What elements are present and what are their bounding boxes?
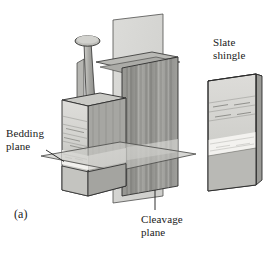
slate-shingle-label: Slate shingle: [213, 36, 245, 61]
bedding-plane-label: Bedding plane: [6, 127, 44, 152]
cleavage-plane-label: Cleavage plane: [141, 213, 183, 238]
panel-label: (a): [14, 208, 28, 221]
slate-shingle-slab: [204, 72, 270, 194]
